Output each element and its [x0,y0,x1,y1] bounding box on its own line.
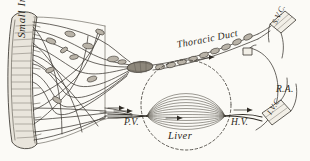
anatomical-diagram-figure: Small Intestine Thoracic Duct S.V.C. R.A… [0,0,310,161]
label-small-intestine: Small Intestine [16,0,27,38]
diagram-canvas [0,0,310,161]
arrow-hepatic-outflow [234,108,252,113]
label-portal-vein: P.V. [124,118,139,128]
label-hepatic-vein: H.V. [231,118,248,128]
label-right-atrium: R.A. [276,85,294,95]
cisterna-chyli [127,60,154,73]
label-liver: Liver [168,131,192,142]
arrow-ivc-ascending [166,116,182,121]
liver-sinusoid-bed [147,94,225,130]
